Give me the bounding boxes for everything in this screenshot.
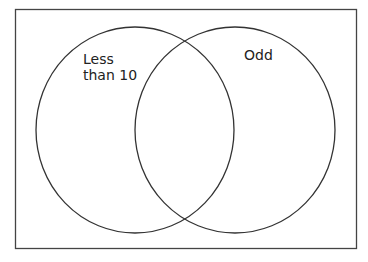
set-label-odd: Odd	[244, 47, 273, 63]
venn-diagram	[0, 0, 368, 262]
set-circle-odd	[135, 27, 335, 233]
set-label-less-than-10: Less than 10	[83, 51, 137, 83]
universal-set-rectangle	[16, 10, 357, 249]
